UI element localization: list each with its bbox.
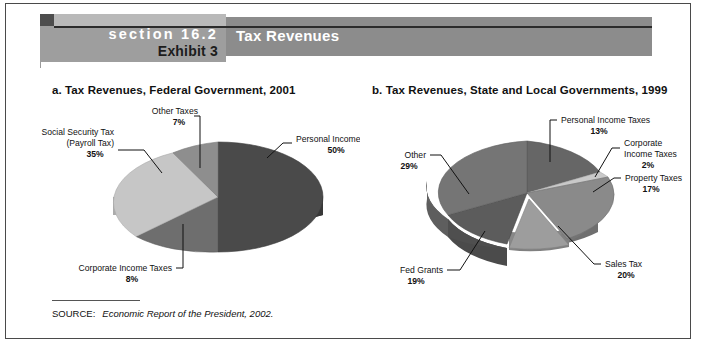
header-upper-band [40, 14, 226, 26]
chart-b-pie: Personal Income Taxes 13% Corporate Inco… [362, 98, 692, 298]
chart-a-pie: Other Taxes 7% Personal Income Taxes 50%… [40, 98, 360, 298]
pie-a-value-social-security-tax: 35% [86, 149, 104, 159]
exhibit-title: Tax Revenues [236, 27, 339, 44]
pie-b-value-corporate-income-taxes: 2% [642, 160, 655, 170]
pie-b-value-property-taxes: 17% [642, 184, 660, 194]
pie-b-value-sales-tax: 20% [617, 270, 635, 280]
pie-b-label-fed-grants: Fed Grants [400, 265, 443, 275]
pie-a-label-corporate-income-taxes: Corporate Income Taxes [79, 263, 172, 273]
pie-b-label-corporate: Corporate [624, 138, 662, 148]
pie-a-value-personal-income-taxes: 50% [327, 145, 345, 155]
chart-b-title: b. Tax Revenues, State and Local Governm… [372, 84, 668, 96]
pie-b-label-property-taxes: Property Taxes [625, 173, 682, 183]
chart-a-title: a. Tax Revenues, Federal Government, 200… [52, 84, 296, 96]
pie-b-label-sales-tax: Sales Tax [605, 259, 643, 269]
pie-a-value-other-taxes: 7% [173, 117, 186, 127]
pie-a-value-corporate-income-taxes: 8% [126, 274, 139, 284]
pie-b-value-fed-grants: 19% [407, 276, 425, 286]
source-rule [52, 300, 140, 301]
pie-b-value-personal-income-taxes: 13% [590, 126, 608, 136]
pie-a-top [113, 142, 323, 252]
pie-a-label-payroll-tax: (Payroll Tax) [66, 138, 114, 148]
exhibit-figure: section 16.2 Exhibit 3 Tax Revenues a. T… [0, 0, 701, 351]
exhibit-number: Exhibit 3 [40, 44, 218, 59]
source-label: SOURCE: [52, 308, 95, 319]
pie-a-label-personal-income-taxes: Personal Income Taxes [296, 134, 360, 144]
pie-a-slice-personal-income-taxes [218, 142, 323, 252]
pie-b-label-other: Other [405, 150, 427, 160]
pie-a-label-social-security-tax: Social Security Tax [42, 127, 115, 137]
pie-a-label-other-taxes: Other Taxes [152, 106, 198, 116]
pie-b-label-corporate-income-taxes: Income Taxes [624, 149, 677, 159]
section-number: section 16.2 [40, 27, 218, 42]
pie-b-label-personal-income-taxes: Personal Income Taxes [561, 115, 650, 125]
exhibit-header: section 16.2 Exhibit 3 Tax Revenues [40, 14, 652, 62]
header-corner-square-icon [40, 14, 54, 26]
pie-b-value-other: 29% [400, 161, 418, 171]
source-citation: Economic Report of the President, 2002. [95, 308, 273, 319]
source-note: SOURCE:Economic Report of the President,… [52, 308, 273, 319]
